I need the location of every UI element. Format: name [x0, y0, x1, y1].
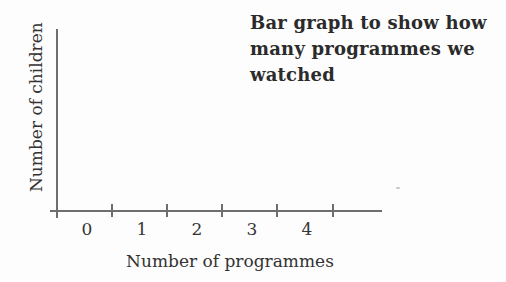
x-tick-label-1: 1: [127, 219, 157, 239]
x-tick-label-3: 3: [237, 219, 267, 239]
x-tick-label-4: 4: [292, 219, 322, 239]
x-axis-tick: [111, 204, 113, 217]
x-axis-tick: [276, 204, 278, 217]
x-axis-tick: [221, 204, 223, 217]
y-axis-label: Number of children: [26, 32, 46, 192]
chart-title: Bar graph to show how many programmes we…: [250, 10, 502, 88]
x-tick-label-0: 0: [72, 219, 102, 239]
bar-graph-worksheet: Bar graph to show how many programmes we…: [0, 0, 506, 282]
x-axis-label: Number of programmes: [110, 251, 350, 271]
x-axis-tick: [332, 204, 334, 217]
x-axis-tick: [166, 204, 168, 217]
x-tick-label-2: 2: [182, 219, 212, 239]
y-axis-line: [56, 29, 58, 218]
scan-artifact-speck: [396, 187, 400, 189]
